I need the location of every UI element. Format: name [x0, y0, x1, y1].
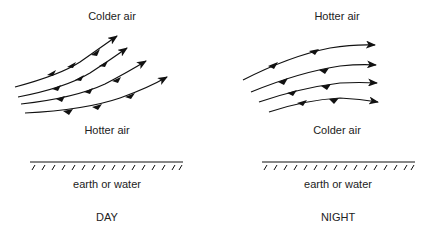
night-ground-label: earth or water [268, 178, 408, 190]
night-ray-2 [251, 65, 376, 92]
day-ray-2 [18, 48, 127, 97]
day-bottom-label: Hotter air [37, 124, 177, 136]
day-caption: DAY [37, 211, 177, 223]
day-ray-1 [15, 36, 117, 87]
night-ray-4 [269, 98, 378, 112]
night-top-label: Hotter air [267, 10, 407, 22]
night-bottom-label: Colder air [267, 124, 407, 136]
night-rays [243, 45, 378, 112]
night-ray-1 [243, 45, 375, 80]
night-caption: NIGHT [268, 211, 408, 223]
day-ground-label: earth or water [37, 178, 177, 190]
day-ground [30, 162, 183, 170]
refraction-diagram [0, 0, 432, 232]
day-top-label: Colder air [42, 10, 182, 22]
day-rays [15, 36, 167, 113]
night-ground [262, 162, 415, 170]
night-arrowheads [268, 49, 339, 106]
